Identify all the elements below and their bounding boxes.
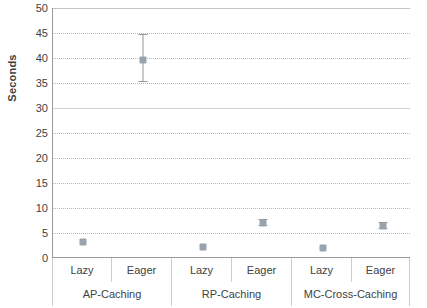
y-axis-tick-labels: 50 45 40 35 30 25 20 15 10 5 0: [14, 8, 48, 258]
x-group-label-rp-caching: RP-Caching: [172, 282, 292, 306]
plot-area: [52, 8, 410, 258]
y-tick-label: 0: [18, 252, 48, 264]
x-label-rp-eager: Eager: [232, 258, 292, 282]
gridline: [53, 108, 410, 109]
data-point-ap-lazy: [80, 239, 87, 246]
gridline: [53, 8, 410, 9]
y-tick-label: 45: [18, 27, 48, 39]
y-tick-label: 40: [18, 52, 48, 64]
chart-container: Seconds 50 45 40 35 30 25 20 15 10 5 0: [0, 0, 427, 308]
error-cap-top-ap-eager: [139, 34, 148, 35]
x-group-label-mc-cross-caching: MC-Cross-Caching: [292, 282, 410, 306]
y-tick-label: 30: [18, 102, 48, 114]
data-point-ap-eager: [140, 56, 147, 63]
x-group-label-ap-caching: AP-Caching: [52, 282, 172, 306]
x-label-rp-lazy: Lazy: [172, 258, 232, 282]
y-tick-label: 25: [18, 127, 48, 139]
gridline: [53, 183, 410, 184]
data-point-rp-lazy: [200, 244, 207, 251]
y-tick-label: 20: [18, 152, 48, 164]
gridline: [53, 133, 410, 134]
y-tick-label: 35: [18, 77, 48, 89]
y-tick-label: 10: [18, 202, 48, 214]
gridline: [53, 83, 410, 84]
gridline: [53, 58, 410, 59]
x-axis-category-labels: Lazy Eager Lazy Eager Lazy Eager: [52, 258, 410, 282]
y-tick-label: 5: [18, 227, 48, 239]
data-point-rp-eager: [260, 220, 267, 227]
gridline: [53, 158, 410, 159]
data-point-mc-lazy: [320, 245, 327, 252]
x-label-mc-eager: Eager: [352, 258, 410, 282]
x-label-ap-lazy: Lazy: [52, 258, 112, 282]
x-label-mc-lazy: Lazy: [292, 258, 352, 282]
data-point-mc-eager: [380, 223, 387, 230]
gridline: [53, 33, 410, 34]
x-label-ap-eager: Eager: [112, 258, 172, 282]
y-tick-label: 15: [18, 177, 48, 189]
x-axis-group-labels: AP-Caching RP-Caching MC-Cross-Caching: [52, 282, 410, 306]
gridline: [53, 208, 410, 209]
error-cap-bottom-ap-eager: [139, 81, 148, 82]
y-tick-label: 50: [18, 2, 48, 14]
gridline: [53, 233, 410, 234]
